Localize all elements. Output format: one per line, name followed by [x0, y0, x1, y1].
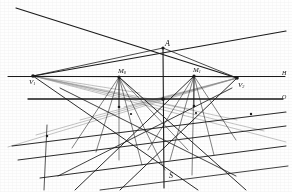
figure-background — [0, 0, 292, 192]
node-r1 — [193, 105, 196, 108]
node-center — [161, 97, 165, 101]
node-v2 — [235, 76, 239, 80]
point-label-v2: V2 — [238, 82, 244, 89]
perspective-figure: AV1M0M1V2SHO — [0, 0, 292, 192]
node-m1 — [192, 74, 195, 77]
horizon-label: H — [282, 70, 286, 76]
node-b2 — [195, 112, 197, 114]
point-label-m1: M1 — [193, 67, 201, 74]
node-l2 — [46, 135, 48, 137]
point-label-v1: V1 — [29, 79, 35, 86]
point-label-m0: M0 — [118, 68, 126, 75]
node-l1 — [118, 106, 121, 109]
figure-canvas — [0, 0, 292, 192]
point-label-a: A — [165, 40, 170, 48]
ground-label: O — [282, 94, 286, 100]
node-b1 — [130, 113, 132, 115]
node-m0 — [117, 75, 120, 78]
node-r2 — [250, 113, 252, 115]
point-label-s: S — [169, 172, 173, 180]
